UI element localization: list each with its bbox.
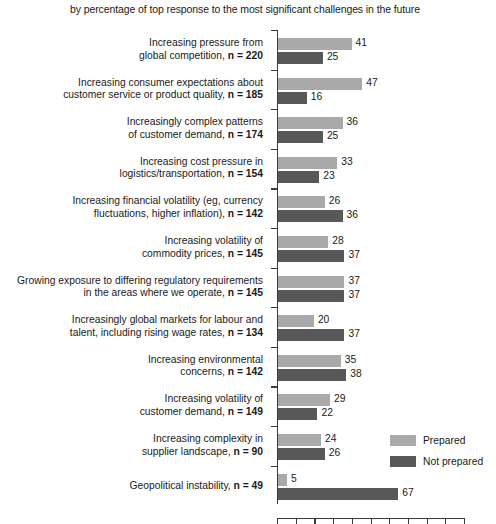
bar-value-label: 16 bbox=[311, 91, 322, 102]
bar-notprepared bbox=[278, 448, 325, 460]
legend-swatch-prepared-icon bbox=[390, 435, 416, 446]
bar-value-label: 38 bbox=[350, 368, 361, 379]
chart-subtitle: by percentage of top response to the mos… bbox=[0, 3, 490, 15]
bar-notprepared bbox=[278, 329, 344, 341]
bar-notprepared bbox=[278, 408, 317, 420]
y-axis-tick bbox=[271, 109, 277, 110]
category-label: Increasing complexity insupplier landsca… bbox=[1, 433, 263, 458]
bar-value-label: 41 bbox=[356, 37, 367, 48]
bar-value-label: 23 bbox=[323, 170, 334, 181]
x-axis-tick bbox=[277, 519, 278, 524]
bar-notprepared bbox=[278, 92, 307, 104]
bar-prepared bbox=[278, 315, 314, 327]
bar-prepared bbox=[278, 355, 341, 367]
bar-notprepared bbox=[278, 488, 398, 500]
bar-prepared bbox=[278, 236, 328, 248]
y-axis-tick bbox=[271, 426, 277, 427]
bar-value-label: 37 bbox=[348, 289, 359, 300]
x-axis-tick bbox=[389, 519, 390, 524]
category-label: Increasing consumer expectations aboutcu… bbox=[1, 77, 263, 102]
bar-value-label: 33 bbox=[341, 156, 352, 167]
legend-item-prepared: Prepared bbox=[390, 432, 483, 449]
bar-prepared bbox=[278, 157, 337, 169]
y-axis-tick bbox=[271, 466, 277, 467]
x-axis-tick bbox=[371, 519, 372, 524]
bar-value-label: 36 bbox=[347, 209, 358, 220]
legend-label-not-prepared: Not prepared bbox=[423, 456, 483, 467]
bar-value-label: 37 bbox=[348, 275, 359, 286]
bar-notprepared bbox=[278, 171, 319, 183]
y-axis-tick bbox=[271, 30, 277, 31]
bar-notprepared bbox=[278, 52, 323, 64]
category-label: Growing exposure to differing regulatory… bbox=[1, 275, 263, 300]
y-axis-tick bbox=[271, 149, 277, 150]
legend-label-prepared: Prepared bbox=[423, 435, 465, 446]
y-axis-tick bbox=[271, 307, 277, 308]
bar-value-label: 36 bbox=[347, 116, 358, 127]
y-axis-tick bbox=[271, 386, 277, 387]
bar-value-label: 28 bbox=[332, 235, 343, 246]
bar-notprepared bbox=[278, 369, 346, 381]
bar-prepared bbox=[278, 38, 352, 50]
bar-value-label: 47 bbox=[366, 77, 377, 88]
y-axis-tick bbox=[271, 188, 277, 189]
bar-value-label: 5 bbox=[291, 473, 297, 484]
bar-prepared bbox=[278, 434, 321, 446]
legend-item-not-prepared: Not prepared bbox=[390, 453, 483, 470]
bar-prepared bbox=[278, 474, 287, 486]
bar-value-label: 24 bbox=[325, 433, 336, 444]
bar-prepared bbox=[278, 196, 325, 208]
bar-value-label: 25 bbox=[327, 130, 338, 141]
y-axis-tick bbox=[271, 70, 277, 71]
category-label: Increasing volatility ofcommodity prices… bbox=[1, 235, 263, 260]
bar-value-label: 25 bbox=[327, 51, 338, 62]
category-label: Increasingly global markets for labour a… bbox=[1, 314, 263, 339]
x-axis-tick bbox=[352, 519, 353, 524]
bar-value-label: 67 bbox=[402, 487, 413, 498]
bar-notprepared bbox=[278, 250, 344, 262]
y-axis-tick bbox=[271, 347, 277, 348]
x-axis-tick bbox=[314, 519, 315, 524]
y-axis-tick bbox=[271, 228, 277, 229]
bar-value-label: 37 bbox=[348, 328, 359, 339]
bar-prepared bbox=[278, 394, 330, 406]
bar-prepared bbox=[278, 78, 362, 90]
x-axis-tick bbox=[296, 519, 297, 524]
bar-value-label: 20 bbox=[318, 314, 329, 325]
x-axis-tick bbox=[408, 519, 409, 524]
bar-value-label: 26 bbox=[329, 195, 340, 206]
x-axis-tick bbox=[464, 519, 465, 524]
y-axis-tick bbox=[271, 268, 277, 269]
bar-notprepared bbox=[278, 131, 323, 143]
category-label: Geopolitical instability, n = 49 bbox=[1, 480, 263, 493]
plot-area: Increasing pressure fromglobal competiti… bbox=[0, 22, 496, 500]
category-label: Increasing financial volatility (eg, cur… bbox=[1, 195, 263, 220]
bar-notprepared bbox=[278, 290, 344, 302]
bar-prepared bbox=[278, 276, 344, 288]
bar-value-label: 37 bbox=[348, 249, 359, 260]
bar-value-label: 22 bbox=[321, 407, 332, 418]
bar-notprepared bbox=[278, 210, 343, 222]
bar-value-label: 29 bbox=[334, 393, 345, 404]
bar-value-label: 26 bbox=[329, 447, 340, 458]
x-axis-tick bbox=[333, 519, 334, 524]
category-label: Increasingly complex patternsof customer… bbox=[1, 116, 263, 141]
bar-prepared bbox=[278, 117, 343, 129]
legend-swatch-not-prepared-icon bbox=[390, 456, 416, 467]
chart-legend: Prepared Not prepared bbox=[390, 432, 483, 474]
x-axis-tick bbox=[445, 519, 446, 524]
category-label: Increasing environmentalconcerns, n = 14… bbox=[1, 354, 263, 379]
x-axis-tick bbox=[427, 519, 428, 524]
chart-container: by percentage of top response to the mos… bbox=[0, 0, 496, 524]
category-label: Increasing pressure fromglobal competiti… bbox=[1, 37, 263, 62]
bar-value-label: 35 bbox=[345, 354, 356, 365]
category-label: Increasing cost pressure inlogistics/tra… bbox=[1, 156, 263, 181]
category-label: Increasing volatility ofcustomer demand,… bbox=[1, 393, 263, 418]
